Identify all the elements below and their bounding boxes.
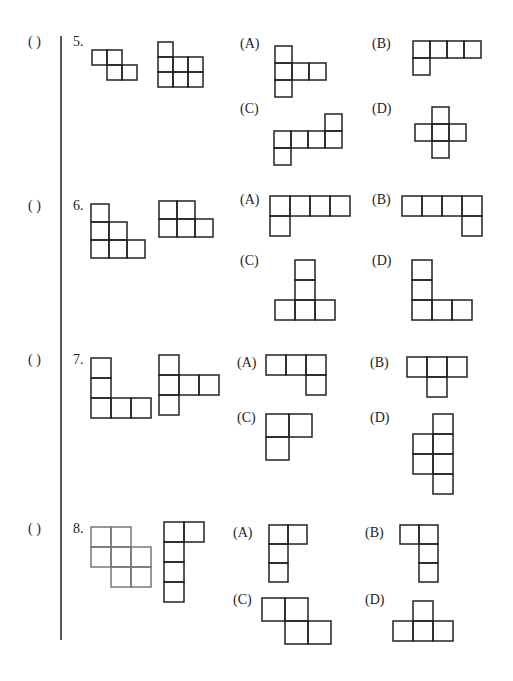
question-5-given-shape-2 bbox=[158, 42, 203, 87]
grid-cell bbox=[164, 562, 184, 582]
grid-cell bbox=[269, 544, 288, 563]
grid-cell bbox=[109, 222, 127, 240]
grid-cell bbox=[270, 216, 290, 236]
grid-cell bbox=[131, 398, 151, 418]
grid-cell bbox=[427, 357, 447, 377]
grid-cell bbox=[285, 598, 308, 621]
grid-cell bbox=[289, 414, 312, 437]
grid-cell bbox=[266, 355, 286, 375]
grid-cell bbox=[462, 216, 482, 236]
grid-cell bbox=[164, 542, 184, 562]
grid-cell bbox=[432, 300, 452, 320]
option-a-shape bbox=[275, 46, 326, 97]
option-c-shape bbox=[275, 260, 335, 320]
grid-cell bbox=[413, 454, 433, 474]
grid-cell bbox=[270, 196, 290, 216]
grid-cell bbox=[131, 547, 151, 567]
question-7-given-shape-1 bbox=[91, 358, 151, 418]
grid-cell bbox=[158, 72, 173, 87]
grid-cell bbox=[111, 527, 131, 547]
grid-cell bbox=[419, 563, 438, 582]
grid-cell bbox=[452, 300, 472, 320]
grid-cell bbox=[419, 544, 438, 563]
grid-cell bbox=[412, 260, 432, 280]
grid-cell bbox=[131, 567, 151, 587]
question-5-given-shape-1 bbox=[92, 50, 137, 80]
grid-cell bbox=[464, 41, 481, 58]
grid-cell bbox=[184, 522, 204, 542]
option-a-shape bbox=[266, 355, 326, 395]
grid-cell bbox=[413, 621, 433, 641]
grid-cell bbox=[427, 377, 447, 397]
grid-cell bbox=[291, 131, 308, 148]
option-c-shape bbox=[262, 598, 331, 644]
grid-cell bbox=[449, 124, 466, 141]
option-b-shape bbox=[400, 525, 438, 582]
grid-cell bbox=[413, 58, 430, 75]
grid-cell bbox=[430, 41, 447, 58]
grid-cell bbox=[91, 240, 109, 258]
grid-cell bbox=[325, 131, 342, 148]
grid-cell bbox=[269, 563, 288, 582]
grid-cell bbox=[275, 63, 292, 80]
grid-cell bbox=[275, 80, 292, 97]
grid-cell bbox=[158, 57, 173, 72]
grid-cell bbox=[462, 196, 482, 216]
grid-cell bbox=[422, 196, 442, 216]
grid-cell bbox=[91, 358, 111, 378]
grid-cell bbox=[433, 454, 453, 474]
grid-cell bbox=[393, 621, 413, 641]
grid-cell bbox=[432, 107, 449, 124]
grid-cell bbox=[413, 601, 433, 621]
option-d-shape bbox=[412, 260, 472, 320]
grid-cell bbox=[164, 582, 184, 602]
grid-cell bbox=[91, 547, 111, 567]
grid-cell bbox=[111, 547, 131, 567]
grid-cell bbox=[442, 196, 462, 216]
grid-cell bbox=[286, 355, 306, 375]
grid-cell bbox=[447, 41, 464, 58]
grid-cell bbox=[290, 196, 310, 216]
grid-cell bbox=[412, 280, 432, 300]
option-b-shape bbox=[402, 196, 482, 236]
grid-cell bbox=[288, 525, 307, 544]
grid-cell bbox=[432, 141, 449, 158]
grid-cell bbox=[275, 46, 292, 63]
grid-cell bbox=[274, 148, 291, 165]
grid-cell bbox=[266, 437, 289, 460]
grid-cell bbox=[402, 196, 422, 216]
grid-cell bbox=[325, 114, 342, 131]
grid-cell bbox=[91, 204, 109, 222]
shape-canvas bbox=[0, 0, 513, 681]
grid-cell bbox=[159, 395, 179, 415]
grid-cell bbox=[407, 357, 427, 377]
grid-cell bbox=[274, 131, 291, 148]
option-b-shape bbox=[407, 357, 467, 397]
grid-cell bbox=[195, 219, 213, 237]
grid-cell bbox=[173, 72, 188, 87]
grid-cell bbox=[330, 196, 350, 216]
grid-cell bbox=[111, 398, 131, 418]
grid-cell bbox=[109, 240, 127, 258]
grid-cell bbox=[173, 57, 188, 72]
grid-cell bbox=[285, 621, 308, 644]
grid-cell bbox=[107, 65, 122, 80]
grid-cell bbox=[158, 42, 173, 57]
grid-cell bbox=[295, 300, 315, 320]
option-a-shape bbox=[269, 525, 307, 582]
grid-cell bbox=[91, 398, 111, 418]
option-b-shape bbox=[413, 41, 481, 75]
grid-cell bbox=[188, 57, 203, 72]
grid-cell bbox=[91, 222, 109, 240]
grid-cell bbox=[433, 414, 453, 434]
grid-cell bbox=[433, 474, 453, 494]
option-a-shape bbox=[270, 196, 350, 236]
grid-cell bbox=[275, 300, 295, 320]
grid-cell bbox=[413, 41, 430, 58]
grid-cell bbox=[111, 567, 131, 587]
grid-cell bbox=[159, 219, 177, 237]
grid-cell bbox=[295, 260, 315, 280]
grid-cell bbox=[107, 50, 122, 65]
grid-cell bbox=[308, 621, 331, 644]
grid-cell bbox=[306, 355, 326, 375]
